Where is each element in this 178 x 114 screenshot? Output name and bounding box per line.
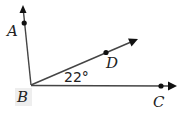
label-a: A (5, 22, 18, 40)
arrowhead-c-icon (168, 82, 177, 91)
angle-label: 22° (64, 69, 89, 85)
point-a (22, 20, 27, 25)
ray-bc (31, 86, 170, 87)
label-d: D (105, 54, 118, 72)
arrowhead-a-icon (20, 5, 27, 13)
label-c: C (153, 93, 165, 111)
angle-diagram: A B C D 22° (0, 0, 178, 114)
label-b: B (16, 88, 28, 106)
point-c (158, 83, 163, 88)
